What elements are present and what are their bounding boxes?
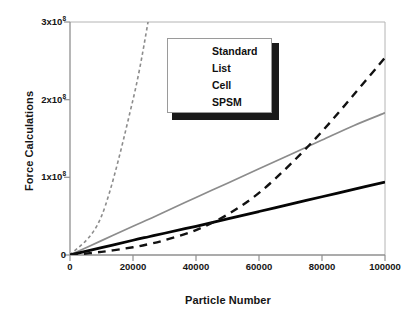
- x-tick-label-100000: 100000: [350, 262, 415, 272]
- x-tick-label-40000: 40000: [161, 262, 231, 272]
- y-tick-label-2e8: 2x108: [41, 95, 66, 105]
- legend-row-spsm: SPSM: [176, 94, 268, 111]
- legend-row-list: List: [176, 60, 268, 77]
- legend-label-list: List: [212, 61, 231, 76]
- series-line-standard: [70, 18, 149, 255]
- legend-label-cell: Cell: [212, 78, 231, 93]
- series-line-spsm: [70, 182, 385, 255]
- y-tick-label-0: 0: [61, 250, 66, 260]
- legend-label-standard: Standard: [212, 44, 258, 59]
- x-tick-label-80000: 80000: [287, 262, 357, 272]
- x-tick-label-20000: 20000: [98, 262, 168, 272]
- x-axis-title: Particle Number: [70, 294, 386, 306]
- y-tick-label-1e8: 1x108: [41, 172, 66, 182]
- legend-row-standard: Standard: [176, 43, 268, 60]
- legend-row-cell: Cell: [176, 77, 268, 94]
- x-tick-label-60000: 60000: [224, 262, 294, 272]
- x-tick-label-0: 0: [35, 262, 105, 272]
- legend-label-spsm: SPSM: [212, 95, 242, 110]
- y-axis-title: Force Calculations: [23, 41, 35, 241]
- legend-box: Standard List Cell SPSM: [167, 38, 272, 113]
- chart-figure: Force Calculations Particle Number 3x108…: [0, 0, 415, 320]
- y-tick-label-3e8: 3x108: [41, 17, 66, 27]
- series-line-cell: [70, 113, 385, 255]
